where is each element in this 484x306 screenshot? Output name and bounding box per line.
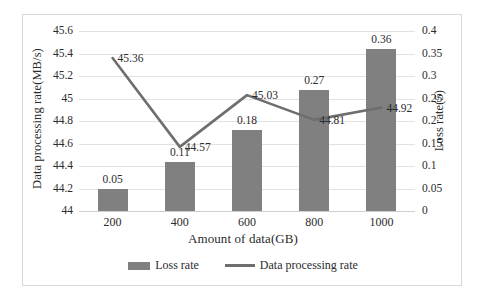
y-axis-left-tick-label: 45.2 <box>53 70 73 82</box>
y-axis-right-tick-label: 0.2 <box>422 115 436 127</box>
chart-legend: Loss rateData processing rate <box>23 258 463 273</box>
y-axis-right-tick-label: 0.35 <box>422 48 442 60</box>
x-axis-tick-label: 200 <box>85 215 141 230</box>
legend-item[interactable]: Data processing rate <box>225 258 358 273</box>
chart-figure: Data processing rate(MB/s) Loss rate(5) … <box>22 14 462 286</box>
legend-label: Data processing rate <box>260 258 358 273</box>
y-axis-left-tick-label: 45.4 <box>53 48 73 60</box>
legend-line-swatch-icon <box>225 264 255 267</box>
x-axis-title: Amount of data(GB) <box>23 231 463 247</box>
y-axis-right-tick-label: 0.3 <box>422 70 436 82</box>
x-axis-tick-label: 400 <box>152 215 208 230</box>
y-axis-left-tick-label: 44.4 <box>53 160 73 172</box>
y-axis-left-tick-label: 45 <box>62 93 74 105</box>
y-axis-right-tick-label: 0.15 <box>422 138 442 150</box>
legend-label: Loss rate <box>155 258 199 273</box>
x-axis-tick-label: 600 <box>219 215 275 230</box>
y-axis-right-tick-label: 0 <box>422 205 428 217</box>
y-axis-left-tick-label: 44 <box>62 205 74 217</box>
y-axis-left-title: Data processing rate(MB/s) <box>30 29 45 209</box>
line-value-label: 44.57 <box>185 142 211 154</box>
line-value-label: 45.03 <box>252 90 278 102</box>
y-axis-left-tick-label: 44.2 <box>53 183 73 195</box>
y-axis-right-tick-label: 0.4 <box>422 25 436 37</box>
y-axis-left-tick-label: 44.8 <box>53 115 73 127</box>
y-axis-right-tick-label: 0.05 <box>422 183 442 195</box>
line-value-label: 44.81 <box>319 115 345 127</box>
line-value-label: 45.36 <box>118 53 144 65</box>
line-value-label: 44.92 <box>386 103 412 115</box>
legend-item[interactable]: Loss rate <box>128 258 199 273</box>
legend-bar-swatch-icon <box>128 262 150 270</box>
plot-area: 45.645.445.24544.844.644.444.244 0.40.35… <box>79 31 415 211</box>
y-axis-right-tick-label: 0.25 <box>422 93 442 105</box>
x-axis-tick-label: 1000 <box>353 215 409 230</box>
x-axis-tick-label: 800 <box>286 215 342 230</box>
y-axis-left-tick-label: 44.6 <box>53 138 73 150</box>
gridline <box>79 211 415 212</box>
y-axis-right-tick-label: 0.1 <box>422 160 436 172</box>
y-axis-left-tick-label: 45.6 <box>53 25 73 37</box>
